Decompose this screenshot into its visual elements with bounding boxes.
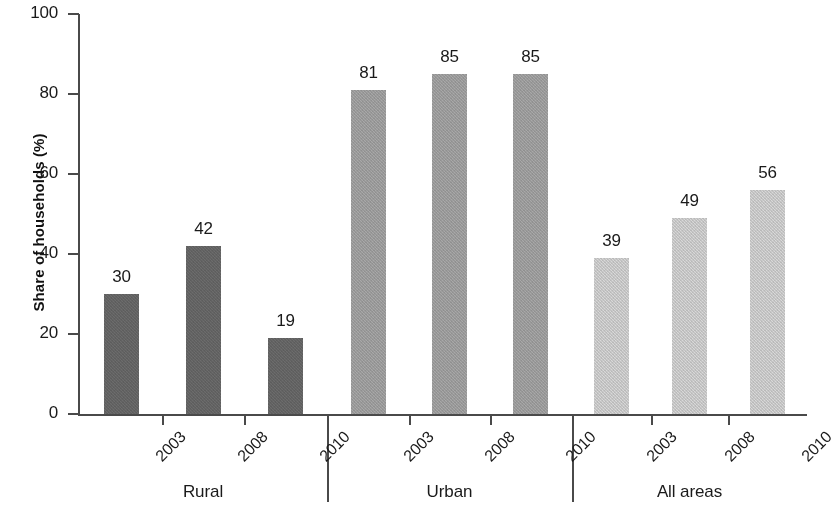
y-axis-tick-label: 80	[0, 83, 58, 103]
group-label: All areas	[573, 482, 806, 502]
bar	[351, 90, 386, 414]
bar-value-label: 85	[493, 47, 568, 67]
y-axis-tick-label: 40	[0, 243, 58, 263]
y-axis-tick	[68, 173, 79, 175]
x-axis-year-label: 2003	[400, 428, 437, 465]
x-axis-year-label: 2010	[562, 428, 599, 465]
bar	[513, 74, 548, 414]
bar-value-label: 39	[574, 231, 649, 251]
group-label: Urban	[328, 482, 571, 502]
group-label: Rural	[80, 482, 326, 502]
bar-texture	[104, 294, 139, 414]
x-axis-tick	[728, 416, 730, 425]
x-axis-year-label: 2010	[798, 428, 835, 465]
bar-texture	[672, 218, 707, 414]
bar-value-label: 49	[652, 191, 727, 211]
bar	[432, 74, 467, 414]
y-axis-tick-label: 60	[0, 163, 58, 183]
y-axis-tick	[68, 333, 79, 335]
bar	[268, 338, 303, 414]
bar-value-label: 81	[331, 63, 406, 83]
x-axis-year-label: 2008	[481, 428, 518, 465]
bar-value-label: 56	[730, 163, 805, 183]
bar	[672, 218, 707, 414]
bar-texture	[750, 190, 785, 414]
bar-value-label: 42	[166, 219, 241, 239]
y-axis-line	[78, 14, 80, 415]
x-axis-year-label: 2008	[721, 428, 758, 465]
bar	[186, 246, 221, 414]
y-axis-tick-label: 100	[0, 3, 58, 23]
x-axis-tick	[162, 416, 164, 425]
bar-texture	[351, 90, 386, 414]
y-axis-tick-label: 20	[0, 323, 58, 343]
x-axis-tick	[244, 416, 246, 425]
bar-texture	[186, 246, 221, 414]
y-axis-tick	[68, 253, 79, 255]
x-axis-tick	[651, 416, 653, 425]
x-axis-tick	[409, 416, 411, 425]
bar-texture	[268, 338, 303, 414]
x-axis-line	[78, 414, 807, 416]
bar	[104, 294, 139, 414]
bar	[750, 190, 785, 414]
x-axis-year-label: 2003	[152, 428, 189, 465]
x-axis-year-label: 2008	[234, 428, 271, 465]
y-axis-title: Share of households (%)	[30, 93, 47, 353]
x-axis-year-label: 2003	[643, 428, 680, 465]
x-axis-year-label: 2010	[316, 428, 353, 465]
bar	[594, 258, 629, 414]
bar-value-label: 85	[412, 47, 487, 67]
x-axis-tick	[490, 416, 492, 425]
y-axis-tick-label: 0	[0, 403, 58, 423]
bar-value-label: 30	[84, 267, 159, 287]
bar-value-label: 19	[248, 311, 323, 331]
bar-texture	[432, 74, 467, 414]
y-axis-tick	[68, 13, 79, 15]
y-axis-tick	[68, 93, 79, 95]
bar-texture	[513, 74, 548, 414]
bar-texture	[594, 258, 629, 414]
